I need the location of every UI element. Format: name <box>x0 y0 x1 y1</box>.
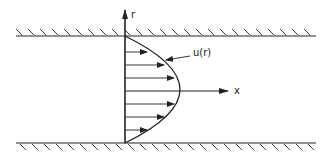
profile-leader-line <box>166 56 190 60</box>
top-wall <box>16 29 316 36</box>
diagram-canvas: r x u(r) <box>0 0 329 159</box>
x-axis-label: x <box>234 86 240 96</box>
bottom-wall <box>16 143 316 150</box>
r-axis-label: r <box>131 10 135 20</box>
profile-label: u(r) <box>193 48 211 58</box>
flow-diagram <box>0 0 329 159</box>
